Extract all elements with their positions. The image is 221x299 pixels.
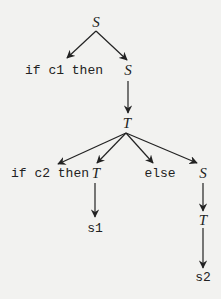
t-left-node: T (92, 166, 100, 181)
edge-t-mid-to-s-right (126, 133, 197, 163)
s-inner-node: S (124, 63, 132, 78)
edge-t-mid-to-if-c2-then (58, 133, 126, 164)
edge-t-mid-to-else (126, 133, 153, 163)
s2-node: s2 (195, 271, 211, 284)
t-mid-node: T (123, 116, 131, 131)
else-node: else (144, 167, 175, 180)
s-right-node: S (199, 166, 207, 181)
tree-edges (0, 0, 221, 299)
root-s-node: S (92, 15, 100, 30)
if-c2-then-node: if c2 then (11, 167, 89, 180)
s1-node: s1 (87, 222, 103, 235)
t-right-node: T (199, 213, 207, 228)
edge-root-to-s-inner (96, 31, 127, 60)
if-c1-then-node: if c1 then (25, 64, 103, 77)
edge-root-to-if-c1-then (67, 31, 96, 58)
edge-t-mid-to-t-left (97, 133, 126, 163)
